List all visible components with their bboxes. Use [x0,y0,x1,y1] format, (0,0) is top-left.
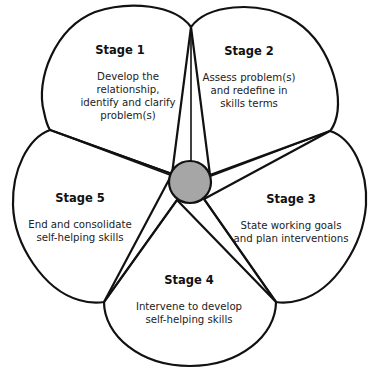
stage-2-desc-line-3: skills terms [220,98,278,109]
stage-5-title: Stage 5 [55,191,105,205]
stage-1-desc-line-1: Develop the [97,71,159,82]
stage-3-title: Stage 3 [266,192,316,206]
stage-3-desc-line-2: and plan interventions [234,233,349,244]
stage-5-desc-line-1: End and consolidate [28,219,131,230]
stage-1-desc-line-4: problem(s) [100,110,155,121]
stage-4-desc-line-2: self-helping skills [145,314,232,325]
five-stage-model-diagram: Stage 1 Develop the relationship, identi… [0,0,379,375]
center-hub [169,161,211,203]
stage-4-title: Stage 4 [164,273,214,287]
stage-1-desc-line-2: relationship, [96,84,159,95]
stage-1-desc-line-3: identify and clarify [80,97,175,108]
stage-4-desc-line-1: Intervene to develop [136,301,242,312]
stage-5-desc-line-2: self-helping skills [36,232,123,243]
stage-2-desc-line-1: Assess problem(s) [202,72,295,83]
stage-2-desc-line-2: and redefine in [210,85,287,96]
stage-1-title: Stage 1 [95,43,145,57]
stage-3-desc-line-1: State working goals [241,220,342,231]
stage-2-title: Stage 2 [224,44,274,58]
